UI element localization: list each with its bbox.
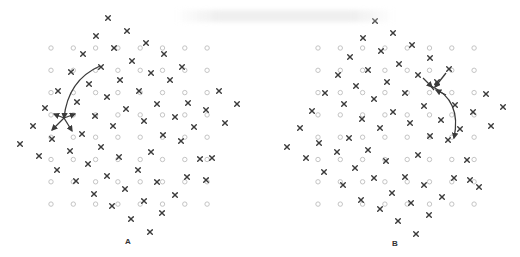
lattice-site — [205, 113, 209, 117]
lattice-site — [472, 157, 476, 161]
lattice-site — [183, 157, 187, 161]
atom-cross — [353, 166, 358, 171]
figure: A B — [0, 0, 520, 257]
lattice-site — [316, 180, 320, 184]
lattice-site — [427, 46, 431, 50]
atom-cross — [155, 180, 160, 185]
atom-cross — [81, 52, 86, 57]
atom-cross — [92, 192, 97, 197]
lattice-site — [160, 113, 164, 117]
atom-cross — [144, 41, 149, 46]
lattice-site — [183, 46, 187, 50]
lattice-site — [360, 90, 364, 94]
atom-cross — [391, 31, 396, 36]
lattice-site — [338, 90, 342, 94]
lattice-site — [405, 113, 409, 117]
lattice-site — [338, 113, 342, 117]
atom-cross — [192, 125, 197, 130]
atom-cross — [427, 213, 432, 218]
atom-cross — [111, 124, 116, 129]
atom-cross — [501, 105, 506, 110]
lattice-site — [49, 180, 53, 184]
lattice-site — [116, 180, 120, 184]
lattice-site — [360, 46, 364, 50]
lattice-site — [138, 113, 142, 117]
atom-cross — [468, 178, 473, 183]
atom-cross — [94, 34, 99, 39]
atom-cross — [56, 89, 61, 94]
lattice-site — [472, 46, 476, 50]
lattice-site — [138, 135, 142, 139]
atom-cross — [323, 91, 328, 96]
lattice-site — [49, 202, 53, 206]
lattice-site — [116, 68, 120, 72]
lattice-site — [116, 135, 120, 139]
atom-cross — [422, 183, 427, 188]
atom-cross — [105, 174, 110, 179]
lattice-site — [316, 135, 320, 139]
panel-a-label: A — [125, 237, 131, 246]
atom-cross — [452, 176, 457, 181]
atom-cross — [416, 73, 421, 78]
atom-cross — [458, 127, 463, 132]
lattice-site — [338, 202, 342, 206]
atom-cross — [372, 97, 377, 102]
lattice-site — [160, 157, 164, 161]
lattice-site — [405, 135, 409, 139]
lattice-site — [316, 68, 320, 72]
lattice-site — [205, 46, 209, 50]
lattice-site — [360, 180, 364, 184]
atom-cross — [428, 56, 433, 61]
lattice-site — [93, 46, 97, 50]
lattice-site — [472, 202, 476, 206]
atom-cross — [304, 156, 309, 161]
atom-cross — [31, 124, 36, 129]
atom-cross — [410, 43, 415, 48]
lattice-site — [71, 46, 75, 50]
lattice-site — [49, 46, 53, 50]
lattice-site — [427, 113, 431, 117]
lattice-site — [49, 90, 53, 94]
atom-cross — [379, 49, 384, 54]
lattice-site — [383, 90, 387, 94]
lattice-site — [93, 90, 97, 94]
atom-cross — [68, 149, 73, 154]
lattice-site — [71, 157, 75, 161]
atom-cross — [110, 204, 115, 209]
lattice-site — [138, 180, 142, 184]
lattice-site — [450, 157, 454, 161]
atom-cross — [185, 175, 190, 180]
atom-cross — [414, 232, 419, 237]
atom-cross — [125, 29, 130, 34]
panel-b — [285, 19, 506, 237]
lattice-site — [183, 90, 187, 94]
atom-cross — [408, 121, 413, 126]
lattice-site — [160, 46, 164, 50]
lattice-site — [450, 90, 454, 94]
show-through-bleed — [175, 10, 395, 22]
atom-cross — [403, 175, 408, 180]
atom-cross — [186, 101, 191, 106]
atom-cross — [391, 110, 396, 115]
displacement-arrow — [54, 114, 64, 118]
atom-cross — [148, 230, 153, 235]
atom-cross — [385, 80, 390, 85]
lattice-site — [405, 157, 409, 161]
atom-cross — [359, 198, 364, 203]
lattice-site — [472, 68, 476, 72]
atom-cross — [168, 78, 173, 83]
atom-cross — [489, 124, 494, 129]
lattice-site — [138, 68, 142, 72]
atom-cross — [118, 78, 123, 83]
atom-cross — [439, 118, 444, 123]
lattice-site — [138, 157, 142, 161]
atom-cross — [336, 73, 341, 78]
lattice-site — [427, 157, 431, 161]
atom-cross — [149, 71, 154, 76]
atom-cross — [396, 219, 401, 224]
atom-cross — [354, 84, 359, 89]
lattice-site — [405, 180, 409, 184]
atom-cross — [123, 187, 128, 192]
displacement-arrow — [52, 118, 64, 130]
atom-cross — [335, 150, 340, 155]
